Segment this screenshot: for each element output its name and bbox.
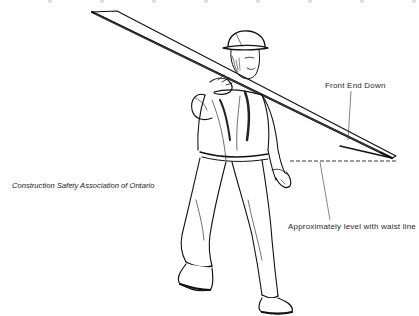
credit-caption: Construction Safety Association of Ontar…	[12, 181, 154, 190]
waist-level-label: Approximately level with waist line	[288, 222, 416, 231]
worker-illustration	[0, 0, 419, 316]
waist-leader-line	[320, 162, 330, 220]
torso	[198, 90, 269, 162]
front-end-down-label: Front End Down	[325, 81, 386, 90]
raised-arm	[192, 75, 233, 120]
illustration-canvas: Front End Down Approximately level with …	[0, 0, 419, 316]
hard-hat	[223, 31, 268, 50]
